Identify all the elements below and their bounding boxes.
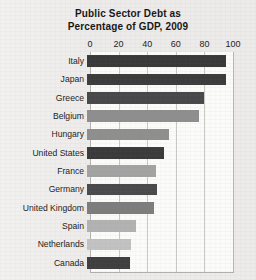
x-tick-label-60: 60 [171,38,181,50]
bar-track [87,162,230,180]
category-label-united-states: United States [0,148,87,158]
bar-track [87,199,230,217]
bar-japan [87,74,226,86]
category-label-canada: Canada [0,258,87,268]
bar-united-kingdom [87,202,154,214]
category-label-france: France [0,166,87,176]
bar-row: Italy [0,52,256,70]
bar-track [87,52,230,70]
category-label-germany: Germany [0,184,87,194]
bar-canada [87,257,130,269]
bar-row: United Kingdom [0,199,256,217]
bar-row: Greece [0,89,256,107]
bar-track [87,235,230,253]
bar-track [87,125,230,143]
category-label-belgium: Belgium [0,111,87,121]
bar-row: Germany [0,180,256,198]
bar-row: Hungary [0,125,256,143]
chart-title-line-1: Public Sector Debt as [0,7,256,20]
bar-france [87,165,156,177]
category-label-italy: Italy [0,56,87,66]
bar-hungary [87,129,169,141]
category-label-japan: Japan [0,74,87,84]
category-label-netherlands: Netherlands [0,239,87,249]
bar-row: Japan [0,70,256,88]
bar-italy [87,55,226,67]
bar-chart-figure: Public Sector Debt as Percentage of GDP,… [0,0,256,280]
bar-track [87,144,230,162]
category-label-hungary: Hungary [0,129,87,139]
bar-belgium [87,110,199,122]
plot-baseline [90,272,234,273]
x-axis-tick-labels: 020406080100 [90,38,233,51]
bar-row: Spain [0,217,256,235]
x-tick-label-20: 20 [114,38,124,50]
bar-rows: ItalyJapanGreeceBelgiumHungaryUnited Sta… [0,52,256,272]
bar-track [87,254,230,272]
bar-netherlands [87,239,131,251]
bar-row: France [0,162,256,180]
category-label-greece: Greece [0,93,87,103]
bar-track [87,180,230,198]
bar-row: Canada [0,254,256,272]
bar-track [87,89,230,107]
bar-spain [87,220,136,232]
bar-track [87,70,230,88]
bar-greece [87,92,204,104]
bar-united-states [87,147,164,159]
bar-germany [87,184,157,196]
x-tick-label-80: 80 [199,38,209,50]
x-tick-label-0: 0 [87,38,92,50]
x-tick-label-40: 40 [142,38,152,50]
bar-row: Belgium [0,107,256,125]
chart-title: Public Sector Debt as Percentage of GDP,… [0,7,256,33]
bar-track [87,217,230,235]
x-tick-label-100: 100 [225,38,240,50]
bar-track [87,107,230,125]
bar-row: Netherlands [0,235,256,253]
category-label-spain: Spain [0,221,87,231]
category-label-united-kingdom: United Kingdom [0,203,87,213]
bar-row: United States [0,144,256,162]
chart-title-line-2: Percentage of GDP, 2009 [0,20,256,33]
